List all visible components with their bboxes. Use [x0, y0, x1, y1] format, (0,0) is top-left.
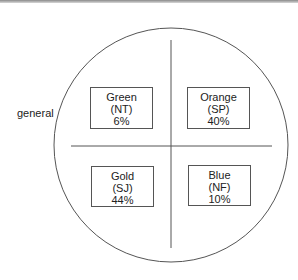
quadrant-blue: Blue (NF) 10% — [188, 165, 251, 206]
quadrant-code: (SJ) — [92, 182, 153, 194]
quadrant-percent: 40% — [188, 115, 249, 127]
quadrant-code: (NF) — [189, 181, 250, 193]
quadrant-green: Green (NT) 6% — [90, 87, 153, 129]
quadrant-color: Gold — [92, 170, 153, 182]
quadrant-percent: 44% — [92, 194, 153, 206]
quadrant-gold: Gold (SJ) 44% — [91, 166, 154, 207]
quadrant-percent: 6% — [91, 115, 152, 127]
quadrant-color: Blue — [189, 169, 250, 181]
circle-diagram — [0, 0, 298, 280]
side-label: general — [17, 107, 54, 119]
quadrant-code: (SP) — [188, 103, 249, 115]
quadrant-color: Orange — [188, 91, 249, 103]
quadrant-orange: Orange (SP) 40% — [187, 87, 250, 129]
quadrant-code: (NT) — [91, 103, 152, 115]
quadrant-percent: 10% — [189, 193, 250, 205]
quadrant-color: Green — [91, 91, 152, 103]
